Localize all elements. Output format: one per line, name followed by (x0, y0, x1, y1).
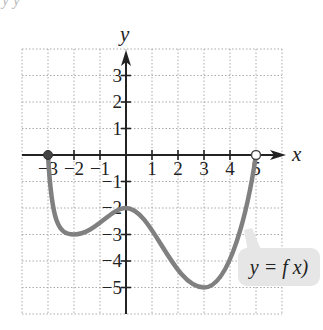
x-tick-label: 3 (199, 158, 209, 179)
x-axis-label: x (291, 142, 302, 166)
y-tick-label: 3 (113, 65, 123, 86)
open-endpoint (252, 151, 261, 160)
equation-callout: y = f x) (238, 228, 320, 286)
closed-endpoint (44, 151, 53, 160)
y-axis-label: y (118, 22, 130, 46)
x-tick-label: −2 (64, 158, 84, 179)
function-graph: −3−2−112345321−1−2−3−4−5 y = f x) x y (0, 0, 323, 330)
y-tick-label: −5 (102, 277, 122, 298)
y-tick-label: −1 (102, 171, 122, 192)
y-tick-label: 2 (113, 91, 123, 112)
x-tick-label: 1 (147, 158, 157, 179)
y-tick-label: −4 (102, 250, 123, 271)
x-tick-label: 2 (173, 158, 183, 179)
x-tick-label: 4 (225, 158, 235, 179)
equation-label: y = f x) (248, 256, 309, 279)
y-tick-label: 1 (113, 118, 123, 139)
y-tick-label: −3 (102, 224, 122, 245)
